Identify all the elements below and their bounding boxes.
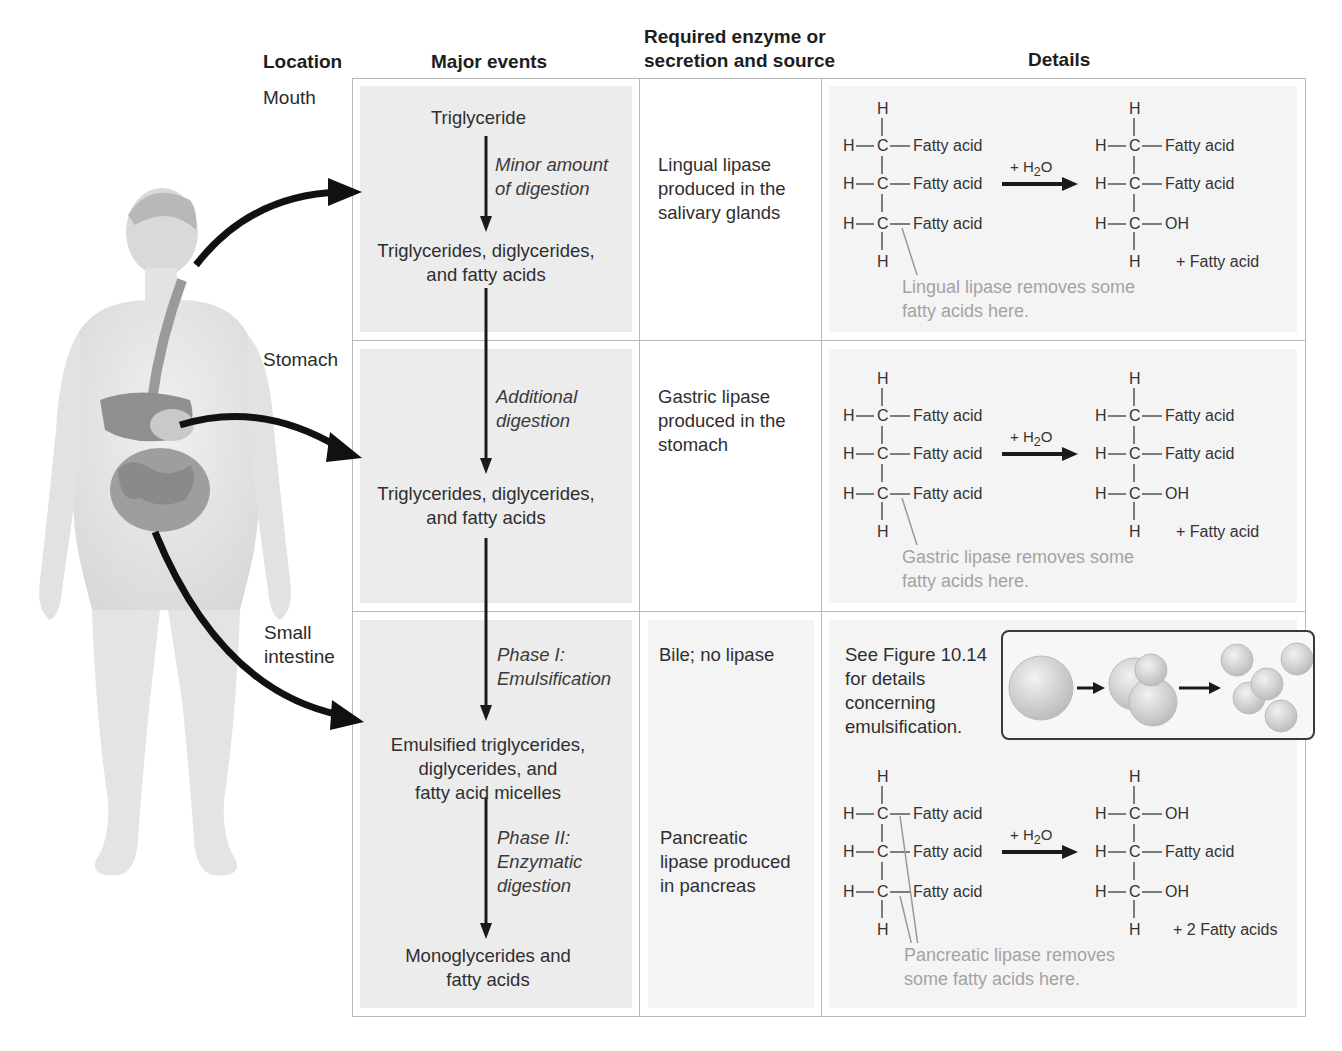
reagent-suffix: O — [1041, 826, 1053, 843]
enzyme-pancreatic-line2: lipase produced — [660, 850, 791, 874]
event-process-stomach-line1: Additional — [496, 385, 577, 409]
atom-C: C — [1129, 445, 1141, 463]
header-details: Details — [1028, 48, 1090, 72]
reactant-group: Fatty acid — [913, 407, 982, 425]
reagent-prefix: + H — [1010, 158, 1034, 175]
byproduct: + Fatty acid — [1176, 253, 1259, 271]
atom-H: H — [843, 883, 855, 901]
atom-H: H — [877, 523, 889, 541]
enzyme-stomach: Gastric lipase produced in the stomach — [658, 385, 786, 457]
header-enzyme: Required enzyme or secretion and source — [644, 25, 835, 73]
enzyme-bile: Bile; no lipase — [659, 643, 774, 667]
atom-H: H — [843, 445, 855, 463]
atom-C: C — [1129, 215, 1141, 233]
atom-H: H — [1095, 883, 1107, 901]
event-result-mouth-line1: Triglycerides, diglycerides, — [360, 239, 612, 263]
event-phase2-line3: digestion — [497, 874, 582, 898]
atom-C: C — [1129, 883, 1141, 901]
atom-H: H — [1095, 805, 1107, 823]
location-small-intestine-line2: intestine — [264, 645, 335, 669]
reaction-note-line1: Gastric lipase removes some — [902, 545, 1134, 569]
event-process-mouth-line2: of digestion — [495, 177, 608, 201]
enzyme-mouth-line1: Lingual lipase — [658, 153, 786, 177]
atom-H: H — [843, 843, 855, 861]
reactant-group: Fatty acid — [913, 805, 982, 823]
reagent-prefix: + H — [1010, 826, 1034, 843]
reaction-note-line2: some fatty acids here. — [904, 967, 1115, 991]
emulsification-reference: See Figure 10.14 for details concerning … — [845, 643, 987, 739]
atom-C: C — [1129, 175, 1141, 193]
event-process-mouth: Minor amount of digestion — [495, 153, 608, 201]
atom-C: C — [877, 445, 889, 463]
reaction-note-line1: Lingual lipase removes some — [902, 275, 1135, 299]
enzyme-stomach-line1: Gastric lipase — [658, 385, 786, 409]
atom-H: H — [877, 370, 889, 388]
emulsification-droplets-icon — [1003, 632, 1313, 738]
location-stomach: Stomach — [263, 348, 338, 372]
reaction-small-intestine: H H C H C H C H Fatty acid Fatty acid Fa… — [840, 768, 1300, 998]
reactant-group: Fatty acid — [913, 883, 982, 901]
atom-C: C — [877, 215, 889, 233]
enzyme-stomach-line3: stomach — [658, 433, 786, 457]
enzyme-mouth: Lingual lipase produced in the salivary … — [658, 153, 786, 225]
reagent-water: + H2O — [1010, 826, 1052, 847]
event-phase1: Phase I: Emulsification — [497, 643, 611, 691]
event-triglyceride: Triglyceride — [431, 106, 526, 130]
reaction-note-line2: fatty acids here. — [902, 299, 1135, 323]
atom-H: H — [1129, 768, 1141, 786]
location-small-intestine: Small intestine — [264, 621, 335, 669]
reaction-mouth: H H C H C H C H Fatty acid Fatty acid Fa… — [840, 100, 1300, 330]
emulsification-illustration — [1001, 630, 1315, 740]
atom-H: H — [1095, 175, 1107, 193]
product-group: Fatty acid — [1165, 175, 1234, 193]
atom-H: H — [877, 253, 889, 271]
reagent-suffix: O — [1041, 158, 1053, 175]
emulsification-reference-line1: See Figure 10.14 — [845, 643, 987, 667]
event-phase1-line2: Emulsification — [497, 667, 611, 691]
atom-H: H — [1095, 137, 1107, 155]
reagent-water: + H2O — [1010, 428, 1052, 449]
column-divider — [821, 78, 822, 1017]
location-mouth: Mouth — [263, 86, 316, 110]
event-emulsified-line2: diglycerides, and — [366, 757, 610, 781]
event-emulsified-line1: Emulsified triglycerides, — [366, 733, 610, 757]
atom-H: H — [1095, 843, 1107, 861]
atom-C: C — [877, 485, 889, 503]
reagent-prefix: + H — [1010, 428, 1034, 445]
enzyme-mouth-line3: salivary glands — [658, 201, 786, 225]
atom-H: H — [1095, 445, 1107, 463]
product-group: Fatty acid — [1165, 445, 1234, 463]
atom-C: C — [877, 883, 889, 901]
atom-H: H — [843, 175, 855, 193]
event-result-stomach: Triglycerides, diglycerides, and fatty a… — [360, 482, 612, 530]
atom-C: C — [1129, 137, 1141, 155]
atom-H: H — [1129, 100, 1141, 118]
event-result-intestine-line2: fatty acids — [366, 968, 610, 992]
emulsification-reference-line4: emulsification. — [845, 715, 987, 739]
emulsification-reference-line2: for details — [845, 667, 987, 691]
reagent-subscript: 2 — [1034, 833, 1041, 847]
event-emulsified: Emulsified triglycerides, diglycerides, … — [366, 733, 610, 805]
product-group: Fatty acid — [1165, 407, 1234, 425]
event-result-intestine-line1: Monoglycerides and — [366, 944, 610, 968]
atom-C: C — [1129, 485, 1141, 503]
event-phase2: Phase II: Enzymatic digestion — [497, 826, 582, 898]
atom-H: H — [843, 485, 855, 503]
enzyme-mouth-line2: produced in the — [658, 177, 786, 201]
atom-H: H — [1095, 215, 1107, 233]
reaction-note-line2: fatty acids here. — [902, 569, 1134, 593]
reaction-note-line1: Pancreatic lipase removes — [904, 943, 1115, 967]
atom-H: H — [1095, 485, 1107, 503]
event-result-intestine: Monoglycerides and fatty acids — [366, 944, 610, 992]
atom-C: C — [1129, 407, 1141, 425]
atom-H: H — [1129, 523, 1141, 541]
atom-C: C — [877, 407, 889, 425]
atom-C: C — [877, 805, 889, 823]
reaction-stomach: H H C H C H C H Fatty acid Fatty acid Fa… — [840, 370, 1300, 600]
reactant-group: Fatty acid — [913, 137, 982, 155]
atom-H: H — [843, 137, 855, 155]
header-major-events: Major events — [431, 50, 547, 74]
column-divider — [639, 78, 640, 1017]
atom-H: H — [1095, 407, 1107, 425]
atom-C: C — [877, 137, 889, 155]
